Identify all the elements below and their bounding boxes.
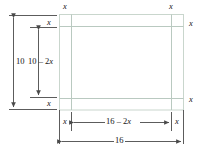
label-corner-bottom-left: x [63, 117, 67, 126]
label-height-inner: 10 – 2x [28, 57, 53, 66]
label-height-total: 10 [16, 57, 25, 66]
label-corner-bottom-right: x [175, 117, 179, 126]
label-corner-top-left: x [63, 2, 67, 11]
label-corner-right-bottom: x [189, 95, 193, 104]
label-height-inner-num: 10 [28, 56, 39, 66]
label-corner-right-top: x [189, 19, 193, 28]
label-corner-left-bottom: x [47, 99, 51, 108]
label-width-inner-num: 16 [106, 116, 117, 126]
label-corner-top-right: x [169, 2, 173, 11]
sheet-outline [60, 15, 184, 111]
outer-rectangle [60, 15, 184, 111]
label-width-inner: 16 – 2x [106, 117, 131, 126]
label-height-inner-op: – 2 [39, 56, 50, 66]
figure-canvas: x x x x x x 10 10 – 2x x x 16 – 2x 16 [0, 0, 205, 160]
label-corner-left-top: x [47, 18, 51, 27]
label-height-inner-var: x [49, 56, 53, 66]
label-width-inner-var: x [127, 116, 131, 126]
label-width-total: 16 [114, 136, 125, 145]
label-width-inner-op: – 2 [117, 116, 128, 126]
diagram-svg [0, 0, 205, 160]
